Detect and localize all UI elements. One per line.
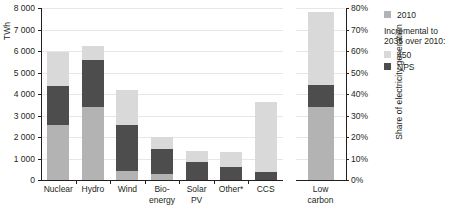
bar-1[interactable] xyxy=(47,8,69,180)
bar-segment-nps xyxy=(82,60,104,107)
chart-legend: 2010 Incremental to 2035 over 2010: 450 … xyxy=(384,10,463,75)
y-axis-tick-label: 7 000 xyxy=(0,26,35,35)
bar-segment-450 xyxy=(116,90,138,125)
x-axis-line-main xyxy=(41,180,283,181)
legend-label-nps: NPS xyxy=(397,62,414,73)
y-axis-tick-label: 6 000 xyxy=(0,47,35,56)
legend-label-450: 450 xyxy=(397,50,411,61)
legend-item-450: 450 xyxy=(384,50,463,61)
y-axis-line-right xyxy=(346,8,347,180)
x-axis-category-label: CCS xyxy=(236,184,296,195)
bar-segment-nps xyxy=(255,172,277,180)
y-axis-tick-label: 5 000 xyxy=(0,69,35,78)
bar-segment-450 xyxy=(82,46,104,60)
bar-low-carbon[interactable] xyxy=(308,8,334,180)
bar-segment-450 xyxy=(255,102,277,173)
bar-segment-450 xyxy=(47,52,69,86)
x-axis-category-label: Low carbon xyxy=(291,184,351,205)
bar-segment-450 xyxy=(220,152,242,167)
legend-heading: Incremental to 2035 over 2010: xyxy=(384,26,458,47)
secondary-plot-area xyxy=(296,8,345,180)
bar-segment-nps xyxy=(186,162,208,180)
secondary-axis-tick-label: 0% xyxy=(351,176,363,185)
secondary-axis-tick-label: 10% xyxy=(351,155,368,164)
bar-segment-2010 xyxy=(116,171,138,180)
legend-swatch-2010 xyxy=(384,11,391,18)
legend-label-2010: 2010 xyxy=(397,10,416,21)
y-axis-tick-label: 1 000 xyxy=(0,155,35,164)
chart-figure: TWh Share of electricity generation 2010… xyxy=(0,0,463,219)
bar-segment-2010 xyxy=(47,125,69,180)
bar-segment-450 xyxy=(308,12,334,85)
secondary-axis-tick-label: 30% xyxy=(351,112,368,121)
bar-segment-450 xyxy=(186,151,208,162)
secondary-axis-tick-label: 40% xyxy=(351,90,368,99)
bar-7[interactable] xyxy=(255,8,277,180)
legend-item-nps: NPS xyxy=(384,62,463,73)
secondary-axis-tick-label: 80% xyxy=(351,4,368,13)
bar-segment-450 xyxy=(151,137,173,149)
secondary-axis-tick xyxy=(346,180,349,181)
bar-2[interactable] xyxy=(82,8,104,180)
secondary-axis-tick-label: 50% xyxy=(351,69,368,78)
y-axis-tick-label: 8 000 xyxy=(0,4,35,13)
bar-segment-nps xyxy=(116,125,138,171)
y-axis-tick-label: 4 000 xyxy=(0,90,35,99)
secondary-axis-tick-label: 70% xyxy=(351,26,368,35)
secondary-axis-tick-label: 20% xyxy=(351,133,368,142)
bar-segment-nps xyxy=(47,86,69,125)
bar-segment-nps xyxy=(151,149,173,174)
secondary-axis-tick-label: 60% xyxy=(351,47,368,56)
bar-4[interactable] xyxy=(151,8,173,180)
bar-segment-2010 xyxy=(82,107,104,180)
bar-5[interactable] xyxy=(186,8,208,180)
y-axis-tick-label: 2 000 xyxy=(0,133,35,142)
bar-segment-nps xyxy=(308,85,334,107)
y-axis-line-left xyxy=(41,8,42,180)
y-axis-tick-label: 3 000 xyxy=(0,112,35,121)
legend-swatch-450 xyxy=(384,51,391,58)
x-axis-line-secondary xyxy=(296,180,346,181)
bar-3[interactable] xyxy=(116,8,138,180)
legend-item-2010: 2010 xyxy=(384,10,463,21)
bar-segment-nps xyxy=(220,167,242,180)
bar-6[interactable] xyxy=(220,8,242,180)
legend-swatch-nps xyxy=(384,63,391,70)
bar-segment-2010 xyxy=(308,107,334,180)
main-plot-area xyxy=(41,8,283,180)
